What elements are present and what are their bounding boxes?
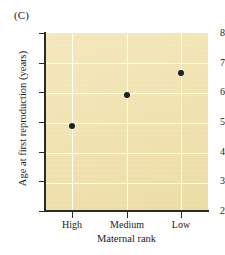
y-tick-8 <box>39 33 45 34</box>
gridline-vertical-high <box>72 33 73 211</box>
x-tick-high <box>72 212 73 218</box>
y-tick-7 <box>39 63 45 64</box>
y-tick-2 <box>39 211 45 212</box>
y-tick-label-3: 3 <box>189 176 225 186</box>
y-tick-5 <box>39 122 45 123</box>
y-tick-label-2: 2 <box>189 206 225 216</box>
x-tick-label-high: High <box>62 219 82 230</box>
gridline-vertical-medium <box>127 33 128 211</box>
y-tick-label-7: 7 <box>189 58 225 68</box>
data-point-high <box>69 123 75 129</box>
y-tick-label-4: 4 <box>189 147 225 157</box>
y-tick-label-5: 5 <box>189 117 225 127</box>
y-tick-label-6: 6 <box>189 87 225 97</box>
data-point-low <box>178 70 184 76</box>
y-axis-label: Age at first reproduction (years) <box>17 24 28 214</box>
data-point-medium <box>124 92 130 98</box>
y-tick-label-8: 8 <box>189 28 225 38</box>
x-tick-label-low: Low <box>172 219 190 230</box>
y-tick-3 <box>39 181 45 182</box>
y-tick-4 <box>39 152 45 153</box>
x-axis-label: Maternal rank <box>45 233 208 244</box>
x-tick-low <box>181 212 182 218</box>
gridline-vertical-low <box>181 33 182 211</box>
x-tick-label-medium: Medium <box>110 219 144 230</box>
figure-panel-c: (C) 8 7 6 5 4 3 2 High Medium Low <box>0 0 225 255</box>
panel-label: (C) <box>14 9 29 21</box>
x-tick-medium <box>127 212 128 218</box>
plot-area <box>45 33 208 211</box>
y-tick-6 <box>39 92 45 93</box>
